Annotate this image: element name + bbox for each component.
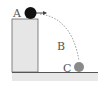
ground-shading	[12, 73, 98, 81]
arrow-head-icon	[43, 11, 47, 15]
label-c: C	[63, 62, 71, 75]
ball-c	[74, 62, 84, 72]
label-b: B	[57, 40, 65, 53]
trajectory-arc	[40, 14, 79, 61]
label-a: A	[12, 7, 22, 20]
ball-a	[25, 7, 37, 19]
cliff-block	[12, 19, 38, 72]
projectile-diagram: A B C	[0, 0, 103, 87]
